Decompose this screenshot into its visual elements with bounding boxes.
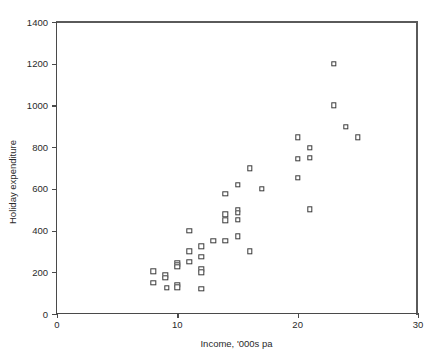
y-tick-mark: 1000 bbox=[52, 105, 57, 106]
x-tick-mark: 30 bbox=[418, 313, 419, 318]
y-tick-mark: 1400 bbox=[52, 22, 57, 23]
x-axis-title: Income, '000s pa bbox=[56, 338, 417, 349]
data-point bbox=[199, 286, 204, 291]
x-tick-mark: 10 bbox=[177, 313, 178, 318]
plot-area: 0200400600800100012001400 0102030 bbox=[56, 22, 417, 314]
y-tick-mark: 800 bbox=[52, 147, 57, 148]
x-tick-label: 0 bbox=[54, 320, 59, 330]
y-tick-label: 800 bbox=[32, 143, 48, 153]
x-tick-label: 20 bbox=[292, 320, 303, 330]
y-axis-title: Holiday expenditure bbox=[7, 122, 18, 242]
y-tick-mark: 400 bbox=[52, 231, 57, 232]
data-point bbox=[307, 207, 312, 212]
y-tick-label: 400 bbox=[32, 226, 48, 236]
y-tick-mark: 1200 bbox=[52, 64, 57, 65]
x-tick-mark: 0 bbox=[57, 313, 58, 318]
data-point bbox=[235, 210, 240, 215]
data-point bbox=[235, 217, 240, 222]
scatter-plot-figure: 0200400600800100012001400 0102030 Holida… bbox=[0, 0, 434, 363]
data-point bbox=[259, 186, 264, 191]
data-point bbox=[295, 134, 300, 139]
data-point bbox=[211, 238, 216, 243]
data-point bbox=[175, 285, 180, 290]
data-point bbox=[223, 191, 228, 196]
data-point bbox=[187, 228, 192, 233]
y-tick-label: 600 bbox=[32, 185, 48, 195]
data-point bbox=[307, 145, 312, 150]
data-point bbox=[223, 212, 228, 217]
data-point bbox=[247, 166, 252, 171]
data-point bbox=[235, 234, 240, 239]
data-point bbox=[163, 275, 168, 280]
data-point bbox=[343, 124, 348, 129]
data-point bbox=[223, 238, 228, 243]
data-point bbox=[235, 182, 240, 187]
y-tick-mark: 200 bbox=[52, 272, 57, 273]
data-point bbox=[151, 269, 156, 274]
y-tick-label: 0 bbox=[43, 310, 48, 320]
x-tick-label: 30 bbox=[413, 320, 424, 330]
data-point bbox=[307, 155, 312, 160]
data-point bbox=[295, 175, 300, 180]
x-tick-label: 10 bbox=[172, 320, 183, 330]
data-point bbox=[199, 254, 204, 259]
data-point bbox=[164, 285, 169, 290]
y-tick-label: 1400 bbox=[27, 18, 48, 28]
data-point bbox=[187, 259, 192, 264]
data-point bbox=[295, 156, 300, 161]
y-tick-label: 200 bbox=[32, 268, 48, 278]
x-tick-mark: 20 bbox=[298, 313, 299, 318]
data-point bbox=[247, 249, 252, 254]
y-tick-label: 1200 bbox=[27, 60, 48, 70]
data-point bbox=[331, 61, 336, 66]
data-point bbox=[355, 134, 360, 139]
data-point bbox=[223, 217, 228, 222]
data-point bbox=[199, 270, 204, 275]
data-point bbox=[187, 249, 192, 254]
data-point bbox=[175, 264, 180, 269]
y-tick-mark: 600 bbox=[52, 189, 57, 190]
data-point bbox=[331, 103, 336, 108]
y-tick-label: 1000 bbox=[27, 101, 48, 111]
data-point bbox=[199, 244, 204, 249]
data-point bbox=[151, 280, 156, 285]
